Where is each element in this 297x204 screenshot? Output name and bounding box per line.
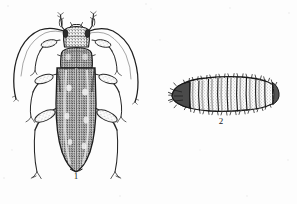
- larva-terminal-segment: [273, 83, 280, 105]
- compound-eye-right: [85, 30, 90, 38]
- figure-2-larva: [169, 74, 280, 116]
- hind-leg-right: [95, 107, 121, 178]
- figure-2-label: 2: [215, 117, 227, 126]
- elytra: [56, 68, 96, 172]
- hind-leg-left: [31, 107, 57, 178]
- fore-leg-left: [31, 38, 60, 75]
- pronotum: [58, 48, 96, 69]
- fore-leg-right: [92, 38, 121, 75]
- plate-artwork: [0, 0, 297, 204]
- figure-1-adult-beetle: [12, 12, 138, 179]
- head: [63, 23, 90, 48]
- illustration-plate: 1 2: [0, 0, 297, 204]
- compound-eye-left: [63, 30, 68, 38]
- figure-1-label: 1: [70, 172, 82, 181]
